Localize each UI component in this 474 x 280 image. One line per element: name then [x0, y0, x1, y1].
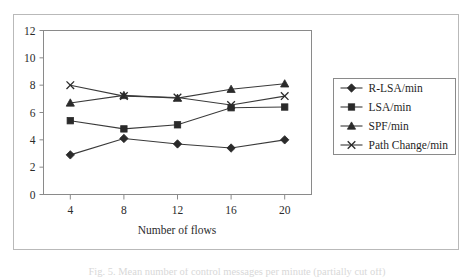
x-axis-title: Number of flows: [138, 224, 217, 236]
y-axis-tick-label: 8: [30, 79, 36, 91]
square-icon: [174, 122, 180, 128]
square-icon: [348, 104, 354, 110]
plot-area: [44, 31, 312, 195]
y-axis-tick-label: 2: [30, 161, 36, 173]
y-axis-tick-label: 10: [24, 52, 36, 64]
legend-item-label: R-LSA/min: [369, 82, 424, 94]
series-r-lsa-min: [66, 134, 289, 159]
diamond-icon: [173, 140, 181, 148]
plot-border-rect: [44, 31, 312, 195]
triangle-icon: [281, 80, 289, 87]
diamond-icon: [66, 151, 74, 159]
x-axis-tick-label: 20: [279, 204, 291, 216]
y-axis-tick-label: 6: [30, 107, 36, 119]
y-axis: 024681012: [24, 25, 44, 201]
diamond-icon: [281, 136, 289, 144]
x-axis-tick-label: 4: [67, 204, 73, 216]
line-chart: 024681012 48121620 Number of flows R-LSA…: [0, 0, 474, 280]
x-axis-tick-label: 12: [172, 204, 184, 216]
y-axis-tick-label: 12: [24, 25, 36, 37]
legend-item-label: LSA/min: [369, 101, 412, 113]
chart-legend: R-LSA/minLSA/minSPF/minPath Change/min: [334, 79, 456, 155]
series-lsa-min: [67, 104, 288, 132]
legend-item-label: Path Change/min: [369, 139, 449, 152]
y-axis-tick-label: 4: [30, 134, 36, 146]
legend-item-label: SPF/min: [369, 120, 410, 132]
diamond-icon: [227, 144, 235, 152]
figure-container: 024681012 48121620 Number of flows R-LSA…: [0, 0, 474, 280]
square-icon: [121, 126, 127, 132]
figure-caption: Fig. 5. Mean number of control messages …: [0, 268, 474, 277]
series-group: [66, 80, 289, 159]
square-icon: [282, 104, 288, 110]
diamond-icon: [120, 134, 128, 142]
series-spf-min: [66, 80, 289, 106]
square-icon: [67, 118, 73, 124]
figure-caption-strip: Fig. 5. Mean number of control messages …: [0, 268, 474, 280]
x-axis-tick-label: 8: [121, 204, 127, 216]
y-axis-tick-label: 0: [30, 189, 36, 201]
x-axis: 48121620: [67, 195, 290, 216]
x-axis-tick-label: 16: [225, 204, 237, 216]
